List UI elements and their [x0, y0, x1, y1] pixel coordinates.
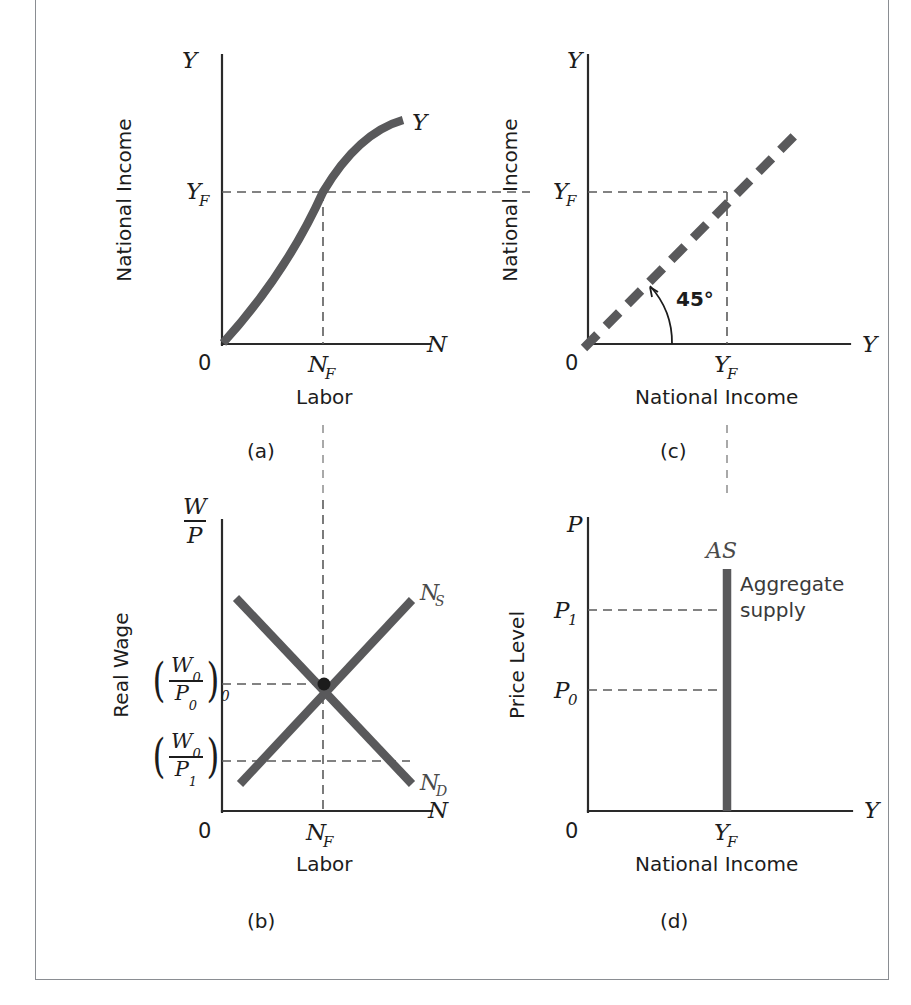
panel-d-p0-tick-sub: 0: [568, 691, 578, 709]
panel-a-caption: (a): [247, 439, 275, 463]
panel-a-y-axis-symbol: Y: [182, 47, 200, 73]
figure-root: Y N 0 Y F N F Y Labor National Income (a…: [0, 0, 911, 1005]
panel-b-supply-sub: S: [435, 593, 445, 609]
panel-b-equilibrium-point: [318, 678, 331, 691]
panel-b-x-axis-title: Labor: [296, 852, 353, 876]
panel-b-x-axis-symbol: N: [427, 797, 449, 823]
panel-c-angle-arc: [650, 286, 672, 344]
panel-d-x-axis-title: National Income: [635, 852, 798, 876]
panel-a-yf-tick-sub: F: [198, 192, 210, 210]
panel-d-origin-label: 0: [565, 819, 578, 843]
panel-d-y-axis-symbol: P: [566, 511, 583, 537]
panel-b-demand-sub: D: [435, 783, 447, 799]
figure-canvas: Y N 0 Y F N F Y Labor National Income (a…: [0, 0, 911, 1005]
panel-a-x-axis-title: Labor: [296, 385, 353, 409]
panel-c-angle-label: 45°: [676, 287, 714, 311]
paren-open-icon: (: [153, 662, 166, 700]
wage-0-numerator: W0: [169, 655, 203, 679]
panel-a-y-axis-title: National Income: [112, 118, 136, 281]
panel-c-xf-tick-sub: F: [726, 365, 738, 383]
panel-d-yf-tick-sub: F: [726, 833, 738, 851]
wage-0-denominator: P0: [173, 683, 199, 707]
wage-0-outer-sub: 0: [221, 688, 230, 704]
panel-a-curve-label: Y: [412, 109, 430, 135]
panel-d-note-line1: Aggregate: [740, 572, 844, 596]
panel-d: P Y 0 P 1 P 0 Y F AS Aggregate supply Na…: [505, 511, 882, 933]
panel-b-y-axis-symbol-numerator: W: [183, 495, 207, 518]
panel-b-y-axis-symbol-denominator: P: [187, 524, 202, 547]
wage-fraction-0: W0 P0: [169, 655, 203, 708]
panel-c-yf-tick-sub: F: [565, 192, 577, 210]
wage-1-denominator: P1: [173, 759, 199, 783]
panel-c-x-axis-title: National Income: [635, 385, 798, 409]
paren-close-icon-2: ): [206, 738, 219, 776]
panel-b-caption: (b): [247, 909, 275, 933]
panel-d-note-line2: supply: [740, 598, 806, 622]
panel-b-y-axis-title: Real Wage: [109, 612, 133, 717]
wage-1-numerator: W0: [169, 731, 203, 755]
panel-d-p1-tick-sub: 1: [568, 611, 578, 629]
panel-d-x-axis-symbol: Y: [864, 797, 882, 823]
panel-c-y-axis-symbol: Y: [567, 47, 585, 73]
panel-b-nf-tick-sub: F: [322, 833, 334, 851]
panel-d-as-label: AS: [704, 538, 737, 563]
panel-b-y-axis-symbol: W P: [183, 495, 207, 547]
panel-a-origin-label: 0: [198, 351, 211, 375]
panel-d-caption: (d): [660, 909, 688, 933]
panel-a: Y N 0 Y F N F Y Labor National Income (a…: [112, 47, 530, 463]
panel-b-wage-label-0: ( W0 P0 ) 0: [150, 655, 231, 708]
panel-a-x-axis-symbol: N: [426, 331, 448, 357]
paren-open-icon-2: (: [153, 738, 166, 776]
panel-b-wage-label-1: ( W0 P1 ): [150, 731, 222, 784]
panel-c: 45° Y Y 0 Y F Y F National Income Nation…: [498, 47, 880, 463]
panel-b: N 0 N F N S N D Labor Real Wage (b): [109, 500, 449, 933]
panel-c-y-axis-title: National Income: [498, 118, 522, 281]
panel-a-nf-tick-sub: F: [324, 365, 336, 383]
wage-fraction-1: W0 P1: [169, 731, 203, 784]
panel-d-y-axis-title: Price Level: [505, 611, 529, 719]
panel-c-45-degree-line: [584, 130, 800, 348]
panel-c-caption: (c): [660, 439, 687, 463]
panel-b-origin-label: 0: [198, 819, 211, 843]
panel-c-x-axis-symbol: Y: [862, 331, 880, 357]
paren-close-icon: ): [206, 662, 219, 700]
panel-c-origin-label: 0: [565, 351, 578, 375]
panel-a-production-curve: [223, 120, 403, 343]
